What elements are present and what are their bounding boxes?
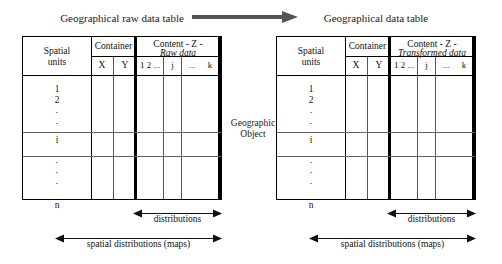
raw-content-col-k: k <box>201 60 219 70</box>
raw-container-col-x: X <box>91 60 113 70</box>
transformed-distributions-label: distributions <box>387 214 476 224</box>
row-label: n <box>277 200 345 211</box>
raw-content-subheader: Raw data <box>136 48 220 58</box>
row-label: 1 <box>277 84 345 95</box>
transformed-row-labels: 1 2 . . i . . . n <box>277 75 345 199</box>
rule-j-dots <box>435 56 436 199</box>
transformed-container-col-x: X <box>345 60 367 70</box>
row-label: 1 <box>23 84 91 95</box>
row-label: . <box>23 176 91 187</box>
row-label: . <box>23 105 91 116</box>
transformed-content-col-1: 1 2 ... <box>390 60 418 70</box>
row-label: . <box>23 165 91 176</box>
row-label: . <box>23 116 91 127</box>
row-label: i <box>277 135 345 146</box>
transformed-container-header: Container <box>345 41 390 51</box>
transformed-content-col-k: k <box>455 60 473 70</box>
raw-spatial-distributions-label: spatial distributions (maps) <box>55 239 222 249</box>
raw-distributions-label: distributions <box>133 214 222 224</box>
row-label: n <box>23 200 91 211</box>
rule-col1-j <box>163 56 164 199</box>
spatial-units-line2: units <box>23 57 91 68</box>
diagram-canvas: Geographical raw data table Geographical… <box>0 0 502 264</box>
raw-content-col-dots: ... <box>182 60 202 70</box>
row-label: . <box>277 176 345 187</box>
transformed-content-subheader: Transformed data <box>390 48 474 58</box>
raw-row-labels: 1 2 . . i . . . n <box>23 75 91 199</box>
raw-container-header: Container <box>91 41 136 51</box>
spatial-units-line1: Spatial <box>277 46 345 57</box>
rule-x-y <box>367 56 368 199</box>
spatial-units-line1: Spatial <box>23 46 91 57</box>
raw-content-col-1: 1 2 ... <box>136 60 164 70</box>
raw-spatial-units-header: Spatial units <box>23 46 91 67</box>
transformed-content-col-dots: ... <box>436 60 456 70</box>
rule-j-dots <box>181 56 182 199</box>
row-label: . <box>23 155 91 166</box>
row-label: 2 <box>277 95 345 106</box>
row-label: . <box>277 155 345 166</box>
row-label: i <box>23 135 91 146</box>
row-label: 2 <box>23 95 91 106</box>
row-label: . <box>277 116 345 127</box>
transformed-spatial-distributions-label: spatial distributions (maps) <box>309 239 476 249</box>
raw-data-table: Spatial units Container X Y Content - Z … <box>22 36 222 200</box>
rule-col1-j <box>417 56 418 199</box>
rule-x-y <box>113 56 114 199</box>
row-label: . <box>277 165 345 176</box>
spatial-units-line2: units <box>277 57 345 68</box>
transformed-spatial-units-header: Spatial units <box>277 46 345 67</box>
transformed-data-table: Spatial units Container X Y Content - Z … <box>276 36 476 200</box>
transformed-table-title: Geographical data table <box>276 12 476 24</box>
transformed-content-col-j: j <box>418 60 435 70</box>
transformed-container-col-y: Y <box>368 60 390 70</box>
raw-container-col-y: Y <box>114 60 136 70</box>
raw-content-col-j: j <box>164 60 181 70</box>
row-label: . <box>277 105 345 116</box>
